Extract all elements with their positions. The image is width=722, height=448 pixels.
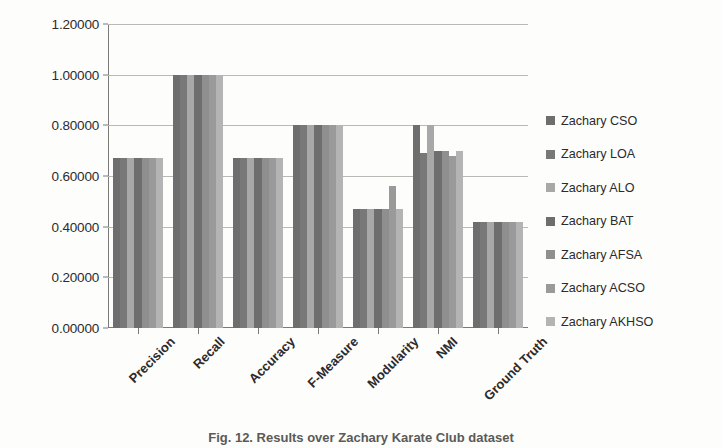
bar bbox=[456, 151, 463, 328]
bar bbox=[353, 209, 360, 328]
legend-label: Zachary AKHSO bbox=[561, 315, 653, 329]
legend-label: Zachary CSO bbox=[561, 114, 637, 128]
bar bbox=[262, 158, 269, 328]
legend-item[interactable]: Zachary CSO bbox=[546, 104, 716, 138]
x-axis-label-slot: F-Measure bbox=[288, 330, 348, 404]
bar bbox=[502, 222, 509, 328]
x-axis-label: NMI bbox=[433, 334, 460, 361]
y-axis-tick-label: 0.40000 bbox=[52, 219, 99, 234]
bar bbox=[134, 158, 141, 328]
bar bbox=[187, 75, 194, 328]
bar-group bbox=[168, 24, 228, 328]
bar bbox=[307, 125, 314, 328]
bar bbox=[382, 209, 389, 328]
bar bbox=[142, 158, 149, 328]
bar bbox=[202, 75, 209, 328]
legend-label: Zachary AFSA bbox=[561, 248, 642, 262]
bar bbox=[314, 125, 321, 328]
bar bbox=[487, 222, 494, 328]
bar bbox=[360, 209, 367, 328]
x-axis-label: Ground Truth bbox=[481, 334, 550, 403]
x-axis-label: Recall bbox=[190, 334, 228, 372]
bar bbox=[449, 156, 456, 328]
bar bbox=[149, 158, 156, 328]
bar bbox=[336, 125, 343, 328]
bar bbox=[494, 222, 501, 328]
bar-group bbox=[288, 24, 348, 328]
legend-item[interactable]: Zachary AKHSO bbox=[546, 305, 716, 339]
x-axis-label-slot: Precision bbox=[108, 330, 168, 404]
legend-item[interactable]: Zachary ALO bbox=[546, 171, 716, 205]
bar bbox=[374, 209, 381, 328]
bar bbox=[120, 158, 127, 328]
bar bbox=[413, 125, 420, 328]
legend-swatch-icon bbox=[546, 183, 555, 192]
bar bbox=[180, 75, 187, 328]
legend-label: Zachary ACSO bbox=[561, 281, 645, 295]
x-axis-label-slot: NMI bbox=[408, 330, 468, 404]
legend-swatch-icon bbox=[546, 217, 555, 226]
figure-caption: Fig. 12. Results over Zachary Karate Clu… bbox=[0, 430, 722, 445]
legend-item[interactable]: Zachary ACSO bbox=[546, 272, 716, 306]
bar bbox=[276, 158, 283, 328]
bar bbox=[173, 75, 180, 328]
x-axis-label-slot: Modularity bbox=[348, 330, 408, 404]
bar bbox=[233, 158, 240, 328]
legend-swatch-icon bbox=[546, 150, 555, 159]
bar bbox=[216, 75, 223, 328]
chart-legend: Zachary CSOZachary LOAZachary ALOZachary… bbox=[546, 104, 716, 339]
bar bbox=[247, 158, 254, 328]
bar bbox=[367, 209, 374, 328]
x-axis-label-slot: Ground Truth bbox=[468, 330, 528, 404]
y-axis-tick-label: 0.20000 bbox=[52, 270, 99, 285]
y-axis-tick-label: 1.00000 bbox=[52, 67, 99, 82]
bar-group bbox=[408, 24, 468, 328]
legend-item[interactable]: Zachary AFSA bbox=[546, 238, 716, 272]
y-axis-tick-label: 0.60000 bbox=[52, 169, 99, 184]
legend-label: Zachary BAT bbox=[561, 214, 634, 228]
bar bbox=[156, 158, 163, 328]
bar bbox=[300, 125, 307, 328]
legend-swatch-icon bbox=[546, 250, 555, 259]
bar bbox=[113, 158, 120, 328]
bar bbox=[480, 222, 487, 328]
legend-swatch-icon bbox=[546, 284, 555, 293]
x-axis-labels: PrecisionRecallAccuracyF-MeasureModulari… bbox=[108, 330, 528, 404]
bar bbox=[194, 75, 201, 328]
bar bbox=[420, 153, 427, 328]
bar bbox=[442, 151, 449, 328]
bar bbox=[516, 222, 523, 328]
bar bbox=[389, 186, 396, 328]
bar bbox=[396, 209, 403, 328]
bar-group bbox=[468, 24, 528, 328]
bar-groups bbox=[108, 24, 528, 328]
x-axis-label-slot: Recall bbox=[168, 330, 228, 404]
bar bbox=[427, 125, 434, 328]
legend-label: Zachary ALO bbox=[561, 181, 635, 195]
bar bbox=[509, 222, 516, 328]
figure-container: 0.000000.200000.400000.600000.800001.000… bbox=[0, 0, 722, 448]
legend-swatch-icon bbox=[546, 317, 555, 326]
bar bbox=[209, 75, 216, 328]
bar-group bbox=[108, 24, 168, 328]
y-axis-tick-label: 0.00000 bbox=[52, 321, 99, 336]
bar bbox=[269, 158, 276, 328]
bar-group bbox=[228, 24, 288, 328]
bar bbox=[473, 222, 480, 328]
bar bbox=[127, 158, 134, 328]
bar bbox=[240, 158, 247, 328]
legend-item[interactable]: Zachary LOA bbox=[546, 138, 716, 172]
legend-label: Zachary LOA bbox=[561, 147, 635, 161]
plot-area: 0.000000.200000.400000.600000.800001.000… bbox=[108, 24, 528, 328]
y-axis-tick-label: 0.80000 bbox=[52, 118, 99, 133]
legend-swatch-icon bbox=[546, 116, 555, 125]
bar bbox=[322, 125, 329, 328]
bar bbox=[293, 125, 300, 328]
bar-group bbox=[348, 24, 408, 328]
legend-item[interactable]: Zachary BAT bbox=[546, 205, 716, 239]
bar bbox=[329, 125, 336, 328]
y-axis-tick-label: 1.20000 bbox=[52, 17, 99, 32]
bar bbox=[434, 151, 441, 328]
x-axis-label-slot: Accuracy bbox=[228, 330, 288, 404]
bar bbox=[254, 158, 261, 328]
